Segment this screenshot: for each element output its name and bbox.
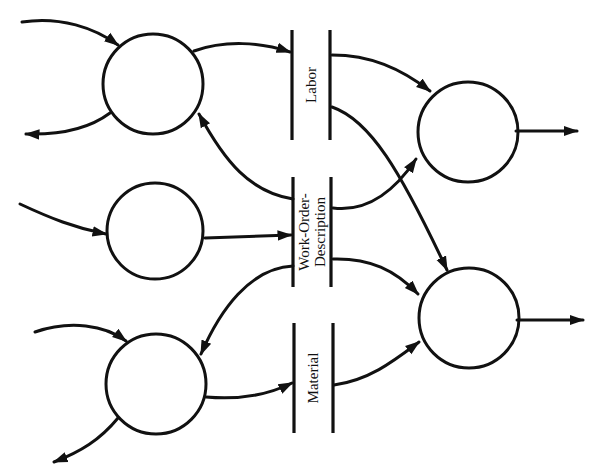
- flow-p2-to-workorder: [205, 235, 291, 238]
- flow-out-p3-to-external: [54, 418, 118, 462]
- store-material: Material: [294, 323, 333, 433]
- process-circle-bottom-left: [106, 334, 206, 434]
- process-circle-bottom-right: [419, 268, 519, 368]
- store-label-material: Material: [305, 353, 321, 404]
- flow-p1-to-labor: [194, 44, 290, 52]
- flow-in-external-to-p3: [35, 325, 126, 341]
- process-circle-middle-left: [107, 183, 203, 279]
- diagram-svg: Labor Work-Order- Description Material: [0, 0, 602, 475]
- flow-in-external-to-p1: [22, 20, 118, 45]
- flow-material-to-p5: [334, 342, 419, 385]
- process-circle-top-right: [418, 82, 518, 182]
- flow-workorder-to-p3: [201, 266, 293, 354]
- flow-in-external-to-p2: [20, 204, 106, 234]
- data-flow-diagram: Labor Work-Order- Description Material: [0, 0, 602, 475]
- flow-workorder-to-p1: [199, 114, 293, 199]
- store-label-work-order-line1: Work-Order-: [296, 193, 312, 271]
- store-work-order-description: Work-Order- Description: [293, 177, 331, 287]
- flow-workorder-to-p5: [333, 259, 418, 294]
- flow-p3-to-material: [206, 383, 292, 398]
- flow-labor-to-p4: [332, 55, 430, 91]
- flow-out-p1-to-external: [26, 113, 110, 134]
- store-labor: Labor: [292, 30, 330, 140]
- store-label-work-order-line2: Description: [312, 197, 328, 267]
- process-circle-top-left: [103, 34, 203, 134]
- store-label-labor: Labor: [303, 67, 319, 103]
